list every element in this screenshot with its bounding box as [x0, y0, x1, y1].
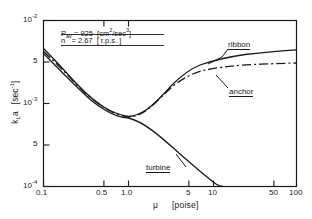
- curve-label-ribbon: ribbon: [228, 40, 250, 50]
- figure-chart: 10-2 5 10-3 5 10-4 kLa [sec-1] 0.1 0.5 1…: [0, 0, 312, 219]
- series-anchor-line: [44, 52, 297, 118]
- series-turbine-line: [44, 54, 224, 187]
- ytick-label-5e-3: 5: [33, 56, 37, 65]
- ytick-label-1e-2: 10-2: [23, 13, 37, 24]
- ytick-label-5e-4: 5: [33, 139, 37, 148]
- x-axis-title-symbol: μ: [153, 200, 158, 210]
- curve-label-anchor: anchor: [229, 87, 253, 97]
- x-tick-marks: [44, 181, 297, 187]
- anchor-leader-line: [216, 75, 228, 88]
- annotation-n: n = 2.67 [ r.p.s. ]: [61, 36, 121, 46]
- xtick-label-5: 5: [186, 188, 190, 197]
- xtick-label-0.5: 0.5: [96, 188, 107, 197]
- x-axis-title-unit: [poise]: [172, 200, 198, 210]
- xtick-label-0.1: 0.1: [36, 188, 47, 197]
- ytick-label-1e-3: 10-3: [23, 96, 37, 107]
- plot-canvas: [0, 0, 312, 219]
- y-axis-title: kLa [sec-1]: [9, 67, 22, 137]
- xtick-label-10: 10: [208, 188, 217, 197]
- xtick-label-100: 100: [289, 188, 302, 197]
- curve-label-turbine: turbine: [146, 163, 170, 173]
- y-tick-marks: [44, 21, 50, 187]
- xtick-label-1.0: 1.0: [121, 188, 132, 197]
- series-ribbon-line: [44, 49, 297, 117]
- xtick-label-50: 50: [269, 188, 278, 197]
- turbine-leader-line: [176, 154, 186, 167]
